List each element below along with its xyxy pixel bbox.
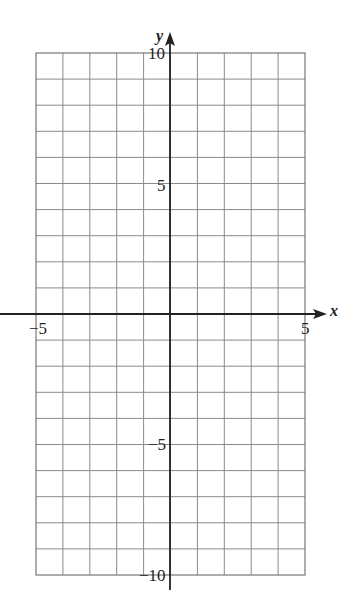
y-axis-label: y xyxy=(156,28,163,44)
x-tick-neg5: −5 xyxy=(29,320,47,337)
coordinate-grid xyxy=(0,0,357,601)
y-tick-neg5: −5 xyxy=(148,436,166,453)
x-tick-5: 5 xyxy=(301,320,310,337)
y-tick-neg10: −10 xyxy=(139,567,166,584)
y-tick-10: 10 xyxy=(148,45,165,62)
x-axis-label: x xyxy=(330,303,338,319)
y-tick-5: 5 xyxy=(157,177,166,194)
